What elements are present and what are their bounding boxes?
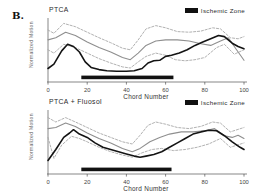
svg-text:80: 80 — [202, 179, 208, 185]
figure-panel-b: B. PTCA Ischemic Zone Normalized Motion … — [0, 0, 267, 196]
ischemic-zone-legend-label: Ischemic Zone — [201, 7, 245, 14]
svg-text:40: 40 — [123, 87, 129, 93]
ischemic-zone-swatch-icon — [185, 100, 198, 105]
ptca-panel-header: PTCA Ischemic Zone — [42, 6, 254, 16]
ischemic-zone-legend: Ischemic Zone — [185, 99, 245, 106]
svg-text:Chord Number: Chord Number — [123, 185, 169, 192]
figure-label: B. — [12, 10, 24, 21]
ptca-panel: PTCA Ischemic Zone Normalized Motion 020… — [42, 6, 254, 101]
panel-title-ptca: PTCA — [49, 6, 69, 13]
ptca-fluosol-panel-header: PTCA + Fluosol Ischemic Zone — [42, 98, 254, 108]
panel-title-ptca-fluosol: PTCA + Fluosol — [49, 98, 102, 105]
svg-text:0: 0 — [46, 87, 49, 93]
svg-text:20: 20 — [84, 179, 90, 185]
svg-text:20: 20 — [84, 87, 90, 93]
svg-text:80: 80 — [202, 87, 208, 93]
y-axis-label: Normalized Motion — [28, 22, 34, 68]
ptca-fluosol-chart: 020406080100Chord Number — [42, 108, 250, 192]
ptca-chart: 020406080100Chord Number — [42, 16, 250, 100]
ischemic-zone-legend: Ischemic Zone — [185, 7, 245, 14]
svg-text:60: 60 — [162, 87, 168, 93]
svg-text:0: 0 — [46, 179, 49, 185]
ischemic-zone-swatch-icon — [185, 8, 198, 13]
svg-text:40: 40 — [123, 179, 129, 185]
svg-text:100: 100 — [239, 179, 249, 185]
y-axis-label: Normalized Motion — [28, 114, 34, 160]
ptca-fluosol-panel: PTCA + Fluosol Ischemic Zone Normalized … — [42, 98, 254, 193]
svg-text:60: 60 — [162, 179, 168, 185]
svg-text:100: 100 — [239, 87, 249, 93]
ischemic-zone-legend-label: Ischemic Zone — [201, 99, 245, 106]
